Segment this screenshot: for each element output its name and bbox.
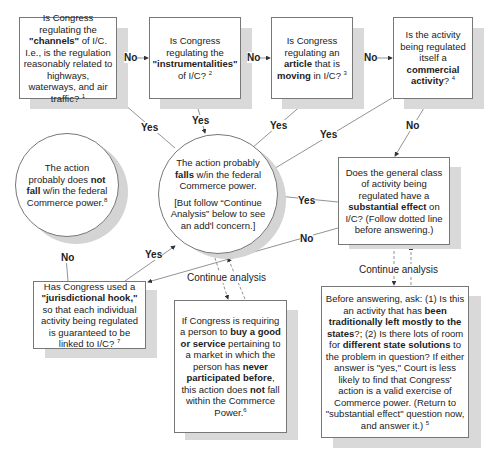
edge-label-no: No — [364, 52, 377, 63]
edge-label-no: No — [61, 252, 74, 263]
node-before-answering: Before answering, ask: (1) Is this an ac… — [321, 286, 469, 438]
node-jurisdictional-hook: Has Congress used a "jurisdictional hook… — [33, 281, 146, 349]
node-not-fall: The action probably does not fall w/in t… — [15, 133, 119, 237]
node-commercial: Is the activity being regulated itself a… — [393, 17, 473, 99]
node-instrumentalities: Is Congress regulating the "instrumental… — [149, 17, 241, 99]
edge-label-yes: Yes — [192, 115, 209, 126]
edge-label-yes: Yes — [141, 122, 158, 133]
node-falls-within: The action probably falls w/in the feder… — [158, 134, 278, 254]
edge-label-no: No — [247, 52, 260, 63]
node-article: Is Congress regulating an article that i… — [271, 17, 353, 99]
node-channels: Is Congress regulating the "channels" of… — [19, 17, 117, 99]
edge-label-no: No — [406, 120, 419, 131]
edge-label-no: No — [300, 233, 313, 244]
edge-label-yes: Yes — [320, 129, 337, 140]
edge-label-yes: Yes — [298, 195, 315, 206]
node-substantial-effect: Does the general class of activity being… — [338, 157, 450, 245]
edge-label-continue-analysis: Continue analysis — [359, 264, 438, 275]
node-buy-good: If Congress is requiring a person to buy… — [174, 300, 287, 433]
edge-label-no: No — [124, 52, 137, 63]
edge-label-continue-analysis: Continue analysis — [187, 272, 266, 283]
edge-label-yes: Yes — [270, 120, 287, 131]
edge-label-yes: Yes — [145, 249, 162, 260]
